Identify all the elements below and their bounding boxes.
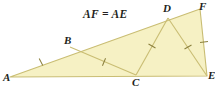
vertex-label-a: A <box>3 72 10 83</box>
vertex-label-d: D <box>163 3 171 14</box>
congruence-caption: AF = AE <box>83 8 127 20</box>
tick-mark-AB <box>39 58 43 65</box>
vertex-label-e: E <box>208 70 215 81</box>
vertex-label-c: C <box>132 77 139 88</box>
geometry-figure: AF = AE A B C D F E <box>0 0 215 90</box>
vertex-label-f: F <box>199 1 206 12</box>
vertex-label-b: B <box>64 35 71 46</box>
